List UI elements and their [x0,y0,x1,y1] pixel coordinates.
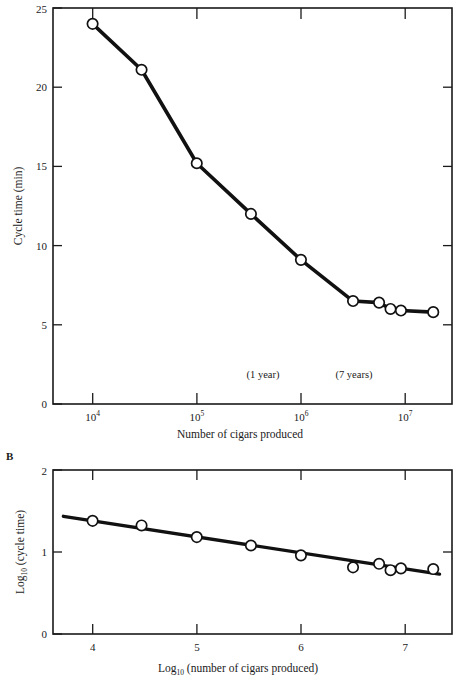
panel-a-ytick-label: 15 [36,160,48,172]
panel-a-ytick-label: 10 [36,240,48,252]
panel-b-x-ticks-top [93,470,406,480]
panel-a-ytick-label: 5 [42,319,48,331]
panel-a-x-ticks-top [93,8,406,19]
panel-a-xtick-label: 106 [294,409,309,423]
svg-text:105: 105 [190,409,205,423]
data-point [192,532,202,542]
panel-b-ytick-label: 1 [42,546,48,558]
data-point [246,209,256,219]
svg-text:106: 106 [294,409,309,423]
panel-a-xtick-label: 104 [85,409,100,423]
panel-b-ytick-label: 2 [42,465,48,477]
panel-b-y-axis-title: Log10 (cycle time) [14,510,29,594]
panel-a-annotation-1-year: (1 year) [247,369,280,381]
data-point [385,304,395,314]
data-point [87,19,97,29]
data-point [396,305,406,315]
panel-a-ytick-label: 0 [42,398,48,410]
panel-a-y-ticks-right [443,87,452,325]
panel-a-y-axis-title: Cycle time (min) [12,167,25,246]
panel-b-letter: B [6,450,14,462]
svg-text:107: 107 [398,409,413,423]
panel-a-ytick-label: 25 [36,3,48,15]
panel-b-x-axis-title: Log10 (number of cigars produced) [158,662,318,677]
panel-b-chart: B 0 1 2 4 5 [0,444,458,689]
panel-b-xtick-label: 7 [402,641,408,653]
svg-text:104: 104 [85,409,100,423]
panel-b-x-ticks [93,624,406,634]
data-point [385,565,395,575]
panel-b-plot-frame [53,470,452,634]
data-point [296,255,306,265]
panel-a-x-axis-title: Number of cigars produced [177,428,303,441]
panel-b-xtick-label: 4 [90,641,96,653]
panel-a-plot-frame [53,8,452,404]
data-point [87,516,97,526]
data-point [136,520,146,530]
panel-a-x-ticks [93,393,406,404]
data-point [374,559,384,569]
data-point [374,297,384,307]
panel-b-y-ticks [53,470,62,634]
panel-b-xtick-label: 6 [298,641,304,653]
panel-a-chart: 0 5 10 15 20 25 104 105 106 107 Numb [0,0,458,448]
data-point [396,563,406,573]
data-point [296,550,306,560]
data-point [136,65,146,75]
panel-a-ytick-label: 20 [36,81,48,93]
panel-b-ytick-label: 0 [42,628,48,640]
panel-a-xtick-label: 105 [190,409,205,423]
panel-a-data-markers [87,19,438,318]
data-point [246,540,256,550]
panel-a-xtick-label: 107 [398,409,413,423]
panel-b-xtick-label: 5 [194,641,200,653]
data-point [192,158,202,168]
data-point [348,562,358,572]
data-point [348,296,358,306]
data-point [428,307,438,317]
figure-container: 0 5 10 15 20 25 104 105 106 107 Numb [0,0,458,689]
data-point [428,564,438,574]
panel-a-annotation-7-years: (7 years) [335,369,373,381]
panel-a-y-ticks [53,8,62,404]
